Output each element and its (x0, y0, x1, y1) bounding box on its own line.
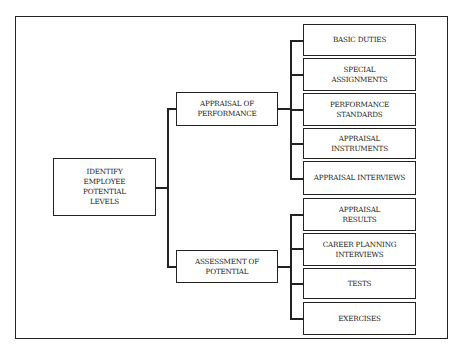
connector-basic-duties (290, 40, 303, 42)
connector-assessment-bracket (290, 214, 292, 319)
leaf-node-exercises: EXERCISES (303, 302, 416, 335)
connector-appraisal-instruments (290, 143, 303, 145)
branch-node-assessment-of-potential: ASSESSMENT OF POTENTIAL (176, 250, 278, 283)
connector-to-appraisal-of-performance (167, 108, 176, 110)
connector-root-bracket (167, 108, 169, 267)
leaf-node-basic-duties: BASIC DUTIES (303, 24, 416, 56)
connector-exercises (290, 318, 303, 320)
root-node-identify-employee-potential-levels: IDENTIFY EMPLOYEE POTENTIAL LEVELS (53, 158, 156, 216)
leaf-node-special-assignments: SPECIAL ASSIGNMENTS (303, 58, 416, 91)
leaf-node-tests: TESTS (303, 268, 416, 299)
leaf-node-career-planning-interviews: CAREER PLANNING INTERVIEWS (303, 233, 416, 266)
connector-appraisal-results (290, 214, 303, 216)
branch-node-appraisal-of-performance: APPRAISAL OF PERFORMANCE (176, 92, 278, 126)
leaf-node-performance-standards: PERFORMANCE STANDARDS (303, 93, 416, 126)
connector-career-planning-interviews (290, 248, 303, 250)
connector-appraisal-interviews (290, 178, 303, 180)
connector-special-assignments (290, 74, 303, 76)
connector-performance-standards (290, 109, 303, 111)
connector-tests (290, 283, 303, 285)
leaf-node-appraisal-interviews: APPRAISAL INTERVIEWS (303, 161, 416, 195)
connector-to-assessment-of-potential (167, 266, 176, 268)
leaf-node-appraisal-instruments: APPRAISAL INSTRUMENTS (303, 128, 416, 159)
leaf-node-appraisal-results: APPRAISAL RESULTS (303, 198, 416, 231)
